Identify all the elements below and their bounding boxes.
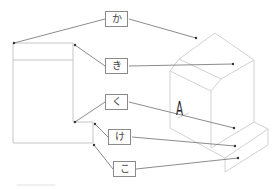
dot-ku-flat <box>74 121 76 123</box>
dot-ko-iso <box>237 157 239 159</box>
iso-step-top <box>211 122 268 158</box>
label-box-ka: か <box>105 11 128 27</box>
dot-ko-flat <box>93 144 95 146</box>
isometric-object <box>170 33 268 172</box>
label-box-ko: こ <box>113 161 136 177</box>
leader-ku-left <box>75 102 105 122</box>
label-text-ki: き <box>112 61 122 71</box>
leader-ki-right <box>129 64 233 66</box>
dot-ku-iso <box>233 127 235 129</box>
leader-ke-right <box>132 137 235 146</box>
iso-top-face <box>179 33 254 60</box>
dot-ke-flat <box>94 123 96 125</box>
label-text-ko: こ <box>120 164 130 174</box>
label-box-ku: く <box>105 94 128 110</box>
flat-view-outline <box>13 43 93 143</box>
leader-ka-left <box>14 19 105 43</box>
label-text-ka: か <box>112 14 122 24</box>
dot-ka-iso <box>195 37 197 39</box>
leader-ko-left <box>94 145 113 169</box>
iso-top-front-edge-2 <box>221 60 254 79</box>
dot-ka-flat <box>13 42 15 44</box>
leader-ke-left <box>95 124 108 137</box>
diagram-canvas <box>0 0 278 189</box>
label-box-ki: き <box>105 58 128 74</box>
dot-ki-flat <box>74 44 76 46</box>
label-text-ku: く <box>112 97 122 107</box>
leader-ki-left <box>75 45 105 66</box>
label-text-ke: け <box>115 132 125 142</box>
flat-view-outer-edge <box>13 43 93 143</box>
leader-ka-right <box>129 19 196 38</box>
leader-ko-right <box>136 158 238 169</box>
dot-ke-iso <box>234 145 236 147</box>
iso-top-front-edge <box>179 59 221 79</box>
view-direction-marker: A <box>176 99 183 118</box>
label-box-ke: け <box>108 129 131 145</box>
dot-ki-iso <box>232 63 234 65</box>
